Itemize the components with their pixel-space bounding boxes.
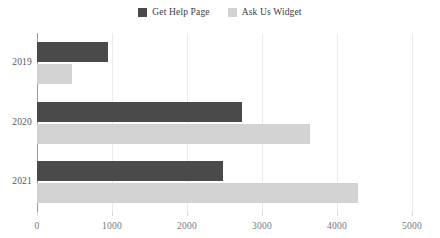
x-axis-tick-mark	[337, 212, 338, 216]
x-axis-tick-label: 0	[35, 222, 40, 232]
x-axis-tick-label: 2000	[177, 222, 197, 232]
legend-entry[interactable]: Ask Us Widget	[228, 8, 302, 18]
legend-entry[interactable]: Get Help Page	[138, 8, 209, 18]
bar[interactable]	[37, 124, 310, 144]
x-axis-tick-mark	[112, 212, 113, 216]
y-axis-tick-label: 2020	[0, 118, 32, 128]
y-axis-tick-label: 2019	[0, 58, 32, 68]
legend-swatch-ask-us-widget	[228, 8, 237, 17]
bar-chart: Get Help PageAsk Us Widget 2019202020210…	[0, 0, 440, 238]
x-axis-tick-mark	[262, 212, 263, 216]
chart-legend: Get Help PageAsk Us Widget	[0, 8, 440, 18]
y-axis-tick-label: 2021	[0, 177, 32, 187]
x-axis-tick-label: 5000	[402, 222, 422, 232]
x-axis-tick-mark	[412, 212, 413, 216]
x-axis-tick-label: 1000	[102, 222, 122, 232]
x-axis-tick-mark	[37, 212, 38, 216]
x-axis-tick-label: 4000	[327, 222, 347, 232]
x-axis-tick-label: 3000	[252, 222, 272, 232]
bar[interactable]	[37, 161, 223, 181]
x-axis-tick-mark	[187, 212, 188, 216]
bar[interactable]	[37, 64, 72, 84]
bar[interactable]	[37, 183, 358, 203]
bar[interactable]	[37, 42, 108, 62]
legend-label: Ask Us Widget	[242, 8, 302, 18]
legend-label: Get Help Page	[152, 8, 209, 18]
legend-swatch-get-help-page	[138, 8, 147, 17]
plot-area	[37, 33, 412, 212]
gridline	[412, 33, 413, 212]
bar[interactable]	[37, 102, 242, 122]
